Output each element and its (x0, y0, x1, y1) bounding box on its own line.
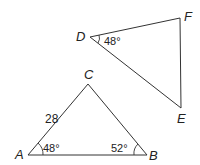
angle-b-label: 52° (111, 142, 128, 154)
vertex-c-label: C (84, 67, 94, 82)
triangle-abc: A B C 28 48° 52° (14, 67, 158, 163)
angle-d-label: 48° (104, 35, 121, 47)
vertex-e-label: E (177, 111, 186, 126)
angle-a-label: 48° (43, 142, 60, 154)
triangle-def: D F E 48° (76, 9, 193, 126)
angle-b-arc (134, 144, 138, 155)
side-ac-length-label: 28 (45, 112, 59, 126)
diagram-svg: D F E 48° A B C 28 48° 52° (0, 0, 200, 165)
angle-d-arc (98, 35, 100, 43)
vertex-f-label: F (184, 9, 193, 24)
vertex-a-label: A (14, 147, 24, 162)
geometry-diagram: D F E 48° A B C 28 48° 52° (0, 0, 200, 165)
vertex-d-label: D (76, 29, 85, 44)
triangle-def-shape (90, 18, 181, 108)
vertex-b-label: B (149, 148, 158, 163)
